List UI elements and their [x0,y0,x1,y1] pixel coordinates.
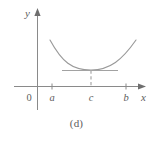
y-axis-label: y [24,7,30,19]
x-axis-label: x [140,91,146,103]
figure-container: y x 0 a c b (d) [0,0,153,142]
tick-label-c: c [89,92,94,103]
function-curve [50,40,136,70]
tick-label-origin: 0 [26,92,31,103]
x-axis-arrowhead [138,83,146,89]
y-axis-arrowhead [34,8,40,16]
tick-label-b: b [123,92,128,103]
figure-caption: (d) [0,116,153,130]
tick-label-a: a [49,92,54,103]
tick-labels-group: 0 a c b [26,92,128,103]
